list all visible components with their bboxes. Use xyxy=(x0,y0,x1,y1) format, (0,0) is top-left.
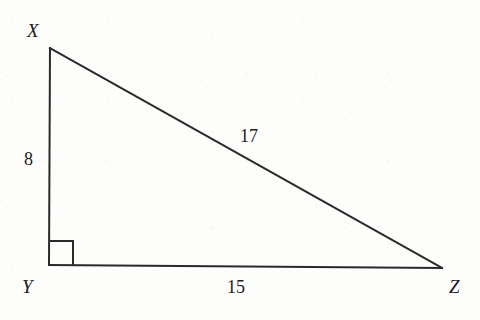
triangle-drawing xyxy=(0,0,480,320)
side-length-label-xz: 17 xyxy=(240,127,258,145)
side-xy-line xyxy=(49,48,50,265)
geometry-figure: X Y Z 8 15 17 xyxy=(0,0,480,320)
side-length-label-yz: 15 xyxy=(227,278,245,296)
right-angle-marker xyxy=(50,241,73,265)
vertex-label-z: Z xyxy=(449,277,460,296)
side-yz-line xyxy=(49,265,442,268)
vertex-label-x: X xyxy=(27,21,39,40)
side-length-label-xy: 8 xyxy=(24,150,33,168)
vertex-label-y: Y xyxy=(22,277,33,296)
side-xz-line xyxy=(50,48,442,268)
